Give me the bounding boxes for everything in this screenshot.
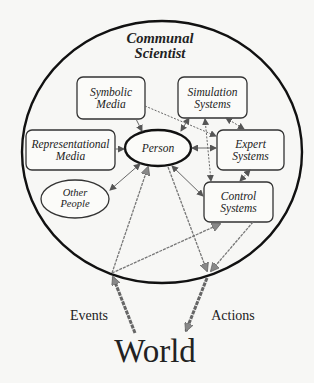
arrow-control-to-actions: [211, 222, 253, 271]
control-systems-label-1: Control: [204, 190, 273, 202]
symbolic-media-node: Symbolic Media: [77, 86, 145, 110]
arrow-symbolic-to-person: [136, 119, 142, 131]
expert-systems-node: Expert Systems: [217, 138, 284, 162]
representational-media-node: Representational Media: [26, 138, 115, 162]
actions-label: Actions: [204, 309, 262, 324]
other-people-node: Other People: [41, 187, 109, 209]
world-label: World: [100, 334, 210, 369]
expert-systems-label-1: Expert: [217, 138, 284, 150]
representational-media-label-2: Media: [26, 150, 115, 162]
symbolic-media-label-2: Media: [77, 98, 145, 110]
simulation-systems-node: Simulation Systems: [178, 86, 247, 110]
arrow-world-to-events: [113, 277, 135, 333]
symbolic-media-label-1: Symbolic: [77, 86, 145, 98]
arrow-simulation-control: [205, 119, 211, 181]
title-line-1: Communal: [110, 31, 210, 46]
communal-scientist-diagram: Communal Scientist Symbolic Media Simula…: [0, 0, 314, 383]
representational-media-label-1: Representational: [26, 138, 115, 150]
arrow-events-to-control: [112, 224, 220, 273]
arrow-events-to-person: [112, 167, 148, 273]
arrow-person-other-people: [110, 164, 140, 190]
simulation-systems-label-1: Simulation: [178, 86, 247, 98]
diagram-title: Communal Scientist: [110, 31, 210, 60]
person-node: Person: [125, 142, 191, 154]
other-people-label-1: Other: [41, 187, 109, 198]
expert-systems-label-2: Systems: [217, 150, 284, 162]
control-systems-label-2: Systems: [204, 202, 273, 214]
arrow-expert-control: [240, 170, 250, 181]
arrow-simulation-expert: [226, 118, 244, 129]
simulation-systems-label-2: Systems: [178, 98, 247, 110]
other-people-label-2: People: [41, 198, 109, 209]
control-systems-node: Control Systems: [204, 190, 273, 214]
arrow-person-to-actions: [168, 167, 207, 271]
events-label: Events: [62, 309, 116, 324]
title-line-2: Scientist: [110, 46, 210, 61]
person-label: Person: [125, 142, 191, 154]
